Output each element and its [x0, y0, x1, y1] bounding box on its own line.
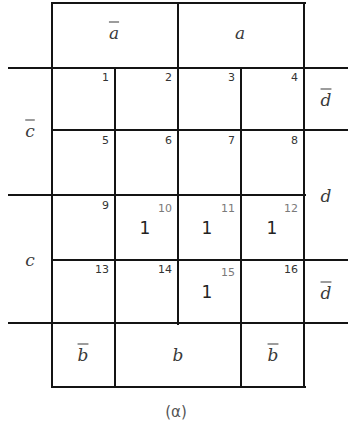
cell-number-13: 13 [95, 264, 109, 275]
label-b: b [173, 347, 184, 364]
cell-number-2: 2 [165, 72, 172, 83]
cell-number-3: 3 [228, 72, 235, 83]
cell-number-10: 10 [158, 203, 172, 214]
map-top-border [52, 2, 306, 4]
cell-number-6: 6 [165, 135, 172, 146]
cell-value-12: 1 [267, 220, 278, 237]
map-right-border [303, 2, 305, 388]
cell-number-15: 15 [221, 267, 235, 278]
label-b-bar-right: b [268, 347, 279, 364]
label-a: a [235, 25, 245, 42]
cell-number-14: 14 [158, 264, 172, 275]
label-c-bar: c [25, 123, 35, 140]
cell-number-7: 7 [228, 135, 235, 146]
cell-value-10: 1 [140, 220, 151, 237]
col-line-1 [114, 67, 116, 388]
cell-number-4: 4 [291, 72, 298, 83]
label-c: c [25, 252, 35, 269]
cell-value-11: 1 [202, 220, 213, 237]
label-d-bar-bottom: d [321, 285, 332, 302]
cell-number-8: 8 [291, 135, 298, 146]
label-b-bar-left: b [78, 347, 89, 364]
col-line-2-upper [177, 2, 179, 325]
label-a-bar: a [109, 25, 119, 42]
karnaugh-map: a a c c d d d b b b 1 2 3 4 5 6 7 8 9 10… [0, 0, 351, 433]
cell-number-9: 9 [102, 200, 109, 211]
label-d-bar-top: d [321, 92, 332, 109]
cell-number-12: 12 [284, 203, 298, 214]
cell-value-15: 1 [202, 284, 213, 301]
cell-number-11: 11 [221, 203, 235, 214]
figure-caption: (α) [165, 403, 187, 421]
col-line-3 [240, 67, 242, 388]
label-d: d [321, 188, 332, 205]
map-bottom-border [52, 386, 306, 388]
cell-number-1: 1 [102, 72, 109, 83]
map-left-border [51, 2, 53, 388]
cell-number-5: 5 [102, 135, 109, 146]
cell-number-16: 16 [284, 264, 298, 275]
